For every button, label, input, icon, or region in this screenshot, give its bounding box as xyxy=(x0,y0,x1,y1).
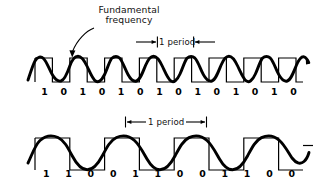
annotation-line-2: frequency xyxy=(88,15,170,25)
top-bit-sequence: 10101010101010 xyxy=(35,86,303,97)
fundamental-frequency-annotation: Fundamental frequency xyxy=(88,5,170,26)
bit-digit: 1 xyxy=(73,86,92,97)
bottom-bit-sequence: 110011001100 xyxy=(35,168,303,179)
bit-digit: 1 xyxy=(188,86,207,97)
bit-digit: 1 xyxy=(112,86,131,97)
bit-digit: 0 xyxy=(102,168,124,179)
bit-digit: 0 xyxy=(207,86,226,97)
bit-digit: 1 xyxy=(265,86,284,97)
bit-digit: 1 xyxy=(124,168,146,179)
figure-canvas: Fundamental frequency 1 period 1 period … xyxy=(0,0,315,186)
bit-digit: 0 xyxy=(54,86,73,97)
bottom-period-label: 1 period xyxy=(148,118,184,128)
top-period-label: 1 period xyxy=(159,38,195,48)
fundamental-frequency-pointer-icon xyxy=(69,28,94,58)
bit-digit: 0 xyxy=(169,168,191,179)
bit-digit: 1 xyxy=(226,86,245,97)
bit-digit: 1 xyxy=(236,168,258,179)
bit-digit: 1 xyxy=(35,168,57,179)
bit-digit: 1 xyxy=(150,86,169,97)
bit-digit: 1 xyxy=(35,86,54,97)
bit-digit: 1 xyxy=(57,168,79,179)
bit-digit: 0 xyxy=(258,168,280,179)
bit-digit: 0 xyxy=(191,168,213,179)
bit-digit: 0 xyxy=(281,168,303,179)
bit-digit: 0 xyxy=(80,168,102,179)
bit-digit: 1 xyxy=(147,168,169,179)
bit-digit: 0 xyxy=(92,86,111,97)
bit-digit: 0 xyxy=(246,86,265,97)
bit-digit: 0 xyxy=(169,86,188,97)
bit-digit: 1 xyxy=(214,168,236,179)
bit-digit: 0 xyxy=(284,86,303,97)
bit-digit: 0 xyxy=(131,86,150,97)
